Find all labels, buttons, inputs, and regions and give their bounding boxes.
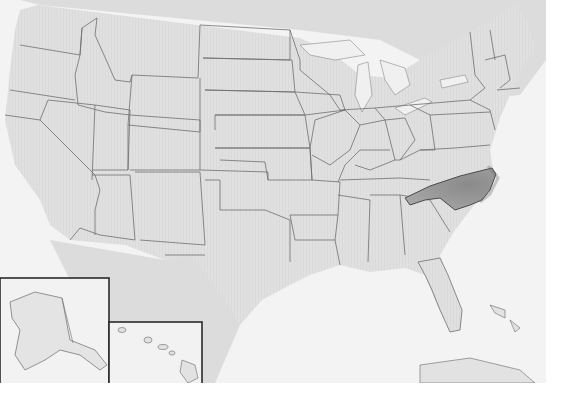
alaska-inset bbox=[0, 278, 109, 383]
us-map-svg bbox=[0, 0, 546, 383]
hawaii-inset bbox=[109, 322, 202, 383]
us-map bbox=[0, 0, 546, 383]
